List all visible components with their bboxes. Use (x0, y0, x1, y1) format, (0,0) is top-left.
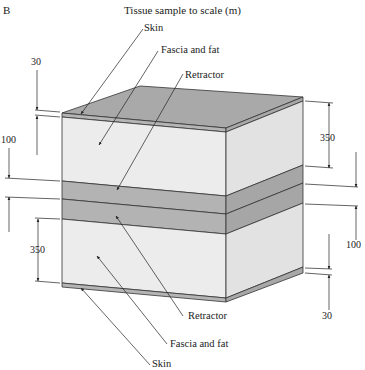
dim-right-100: 100 (346, 239, 361, 250)
dim-left-100: 100 (1, 134, 16, 145)
dim-left-30: 30 (31, 56, 41, 67)
dim-right-30: 30 (322, 310, 332, 321)
tissue-diagram: B Tissue sample to scale (m) Skin Fascia… (0, 0, 365, 370)
figure-title: Tissue sample to scale (m) (124, 4, 241, 17)
label-top-fascia: Fascia and fat (161, 44, 219, 55)
dim-right-350: 350 (320, 132, 335, 143)
label-top-skin: Skin (144, 22, 164, 33)
label-bottom-fascia: Fascia and fat (170, 338, 228, 349)
panel-label: B (3, 4, 10, 16)
tissue-block (62, 86, 303, 302)
label-bottom-retractor: Retractor (188, 310, 228, 321)
label-bottom-skin: Skin (152, 358, 172, 369)
label-top-retractor: Retractor (185, 69, 225, 80)
dim-left-350: 350 (30, 244, 45, 255)
